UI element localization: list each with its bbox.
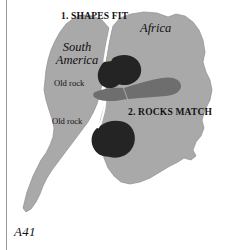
continent-label-africa: Africa — [140, 22, 171, 35]
continent-fit-map — [0, 0, 240, 250]
continent-label-south-america-line2: America — [56, 53, 98, 67]
continental-drift-figure: 1. SHAPES FIT 2. ROCKS MATCH Africa Sout… — [0, 0, 240, 250]
old-rock-north-east — [109, 55, 141, 85]
old-rock-label-north: Old rock — [54, 79, 84, 88]
continent-label-south-america-line1: South — [63, 40, 91, 54]
figure-caption: A41 — [14, 224, 36, 240]
callout-rocks-match: 2. ROCKS MATCH — [128, 108, 212, 118]
continent-label-south-america: South America — [44, 41, 110, 67]
callout-shapes-fit: 1. SHAPES FIT — [61, 12, 128, 22]
old-rock-label-south: Old rock — [52, 117, 82, 126]
